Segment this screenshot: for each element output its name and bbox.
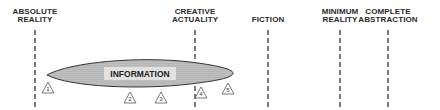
marker-5-label: 5	[226, 87, 229, 93]
marker-1-label: 1	[46, 86, 49, 92]
information-label: INFORMATION	[110, 69, 169, 79]
diagram-graphics	[0, 0, 440, 110]
marker-2-label: 2	[128, 96, 131, 102]
marker-4-label: 4	[199, 91, 202, 97]
marker-3-label: 3	[159, 96, 162, 102]
